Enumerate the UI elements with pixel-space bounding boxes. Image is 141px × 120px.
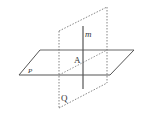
label-p: P <box>27 67 33 75</box>
label-m: m <box>85 29 92 39</box>
label-q: Q <box>61 93 68 103</box>
geometry-diagram: m A P Q <box>0 0 141 120</box>
label-a: A <box>74 55 81 65</box>
